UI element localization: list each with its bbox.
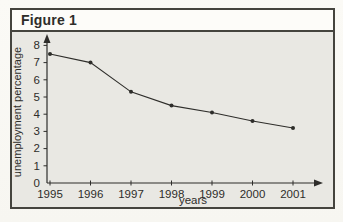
x-tick-label: 1995: [37, 188, 63, 200]
page-background: Figure 1 0123456781995199619971998199920…: [0, 0, 343, 222]
x-tick-label: 1997: [118, 188, 144, 200]
y-tick-label: 1: [34, 160, 40, 172]
y-axis-title: unemployment percentage: [12, 47, 23, 177]
figure-header: Figure 1: [12, 10, 333, 32]
unemployment-line-chart: 0123456781995199619971998199920002001yea…: [12, 32, 333, 207]
data-point: [210, 110, 214, 114]
figure-title: Figure 1: [21, 12, 77, 28]
chart-area: 0123456781995199619971998199920002001yea…: [12, 32, 333, 207]
y-tick-label: 0: [34, 177, 40, 189]
data-point: [251, 119, 255, 123]
y-tick-label: 4: [34, 108, 41, 120]
x-tick-label: 1996: [78, 188, 104, 200]
y-tick-label: 5: [34, 91, 40, 103]
x-axis-title: years: [179, 194, 207, 206]
data-point: [170, 104, 174, 108]
x-tick-label: 2001: [280, 188, 306, 200]
data-point: [48, 52, 52, 56]
x-tick-label: 2000: [240, 188, 266, 200]
y-axis-arrow-icon: [44, 34, 51, 43]
x-axis-arrow-icon: [314, 180, 323, 187]
figure-box: Figure 1 0123456781995199619971998199920…: [10, 8, 335, 209]
data-point: [89, 61, 93, 65]
y-tick-label: 7: [34, 56, 40, 68]
y-tick-label: 6: [34, 74, 40, 86]
data-line: [50, 54, 293, 128]
y-tick-label: 2: [34, 142, 40, 154]
y-tick-label: 3: [34, 125, 40, 137]
data-point: [291, 126, 295, 130]
data-point: [129, 90, 133, 94]
y-tick-label: 8: [34, 39, 40, 51]
